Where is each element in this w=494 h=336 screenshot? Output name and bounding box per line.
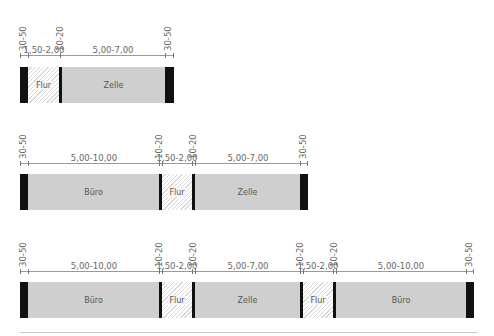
dimension-tick — [300, 161, 301, 166]
room-label: Zelle — [238, 296, 258, 305]
room-label: Flur — [309, 296, 326, 305]
dimension-tick — [20, 269, 21, 274]
dimension-tick — [20, 161, 21, 166]
dimension-tick — [28, 161, 29, 166]
room-zelle: Zelle — [195, 282, 300, 318]
dimension-tick — [307, 161, 308, 166]
room-buero: Büro — [336, 282, 466, 318]
outer-wall — [165, 67, 174, 103]
dimension-tick — [28, 269, 29, 274]
dimension-line — [20, 271, 474, 272]
dimension-line — [20, 163, 308, 164]
dim-label-inner-wall: 10-20 — [189, 242, 198, 267]
room-buero: Büro — [28, 174, 159, 210]
dimension-tick — [466, 269, 467, 274]
room-label: Flur — [168, 188, 185, 197]
dim-label-outer-wall: 30-50 — [299, 134, 308, 159]
room-zelle: Zelle — [62, 67, 165, 103]
bottom-divider — [20, 332, 478, 333]
corridor-flur: Flur — [162, 174, 192, 210]
room-label: Zelle — [238, 188, 258, 197]
dim-label-inner-wall: 10-20 — [56, 26, 65, 51]
corridor-flur: Flur — [28, 67, 59, 103]
dim-label-outer-wall: 30-50 — [465, 242, 474, 267]
dim-label-room: 5,00-10,00 — [71, 262, 117, 271]
dim-label-room: 5,00-7,00 — [93, 46, 134, 55]
dimension-tick — [473, 269, 474, 274]
room-buero: Büro — [28, 282, 159, 318]
room-label: Büro — [84, 188, 103, 197]
dim-label-outer-wall: 30-50 — [19, 134, 28, 159]
dim-label-outer-wall: 30-50 — [164, 26, 173, 51]
dim-label-room: 5,00-10,00 — [71, 154, 117, 163]
dim-label-outer-wall: 30-50 — [19, 242, 28, 267]
dimension-tick — [173, 53, 174, 58]
room-label: Zelle — [104, 81, 124, 90]
room-label: Flur — [35, 81, 52, 90]
room-label: Büro — [392, 296, 411, 305]
dimension-line — [20, 55, 174, 56]
outer-wall — [300, 174, 308, 210]
corridor-flur: Flur — [162, 282, 192, 318]
dim-label-room: 5,00-7,00 — [228, 154, 269, 163]
outer-wall — [20, 174, 28, 210]
outer-wall — [466, 282, 474, 318]
dim-label-room: 5,00-7,00 — [228, 262, 269, 271]
corridor-flur: Flur — [303, 282, 333, 318]
outer-wall — [20, 282, 28, 318]
outer-wall — [20, 67, 28, 103]
dim-label-room: 5,00-10,00 — [378, 262, 424, 271]
dim-label-inner-wall: 10-20 — [330, 242, 339, 267]
room-label: Flur — [168, 296, 185, 305]
room-zelle: Zelle — [195, 174, 300, 210]
dimension-tick — [165, 53, 166, 58]
room-label: Büro — [84, 296, 103, 305]
dimension-tick — [20, 53, 21, 58]
dim-label-inner-wall: 10-20 — [189, 134, 198, 159]
